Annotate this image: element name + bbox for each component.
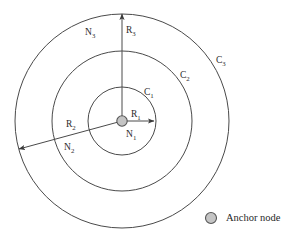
label-n2-letter: N — [64, 142, 71, 152]
anchor-node-center — [117, 116, 127, 126]
anchor-node-marker-icon — [206, 213, 217, 224]
label-c2-subscript: 2 — [186, 75, 189, 82]
label-n3-subscript: 3 — [92, 32, 95, 39]
label-r2: R2 — [66, 120, 76, 132]
label-n1-subscript: 1 — [133, 134, 136, 141]
label-c3-subscript: 3 — [222, 60, 225, 67]
label-c1: C1 — [144, 88, 154, 100]
label-c1-subscript: 1 — [150, 92, 153, 99]
label-r3: R3 — [126, 26, 136, 38]
label-r1-subscript: 1 — [137, 114, 140, 121]
label-n1: N1 — [126, 130, 136, 142]
concentric-circles-diagram — [0, 0, 299, 237]
label-n3: N3 — [85, 28, 95, 40]
label-r1: R1 — [131, 110, 141, 122]
label-n3-letter: N — [85, 27, 92, 37]
label-n2-subscript: 2 — [71, 147, 74, 154]
label-r3-subscript: 3 — [132, 30, 135, 37]
label-n1-letter: N — [126, 129, 133, 139]
label-n2: N2 — [64, 143, 74, 155]
legend-label-anchor-node: Anchor node — [226, 213, 281, 224]
label-r2-subscript: 2 — [72, 124, 75, 131]
label-c3: C3 — [216, 56, 226, 68]
label-c2: C2 — [180, 71, 190, 83]
figure-container: C1 C2 C3 R1 R2 R3 N1 N2 N3 Anchor node — [0, 0, 299, 237]
